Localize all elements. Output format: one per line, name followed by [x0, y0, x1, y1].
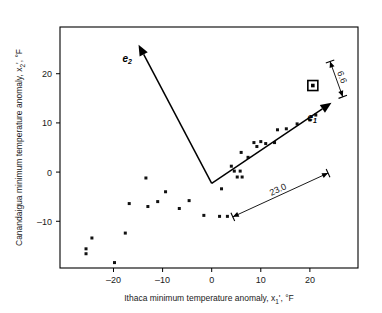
vector-label-e2: e2: [123, 53, 133, 66]
data-point: [188, 199, 191, 202]
vector-shaft-e1: [212, 109, 323, 184]
x-axis-title-post: ', °F: [279, 293, 294, 303]
y-axis-title-post: ', °F: [14, 49, 24, 64]
x-axis-title: Ithaca minimum temperature anomaly, x1',…: [124, 293, 294, 305]
data-point: [124, 232, 127, 235]
x-tick-label: –10: [155, 275, 170, 285]
data-point: [236, 176, 239, 179]
data-point: [202, 214, 205, 217]
data-point: [90, 236, 93, 239]
data-point: [146, 205, 149, 208]
plot-canvas: –20–100102020100–10 e1e2 23.06.6 Ithaca …: [0, 0, 382, 313]
data-point: [264, 142, 267, 145]
y-tick-label: 20: [42, 69, 52, 79]
data-point: [85, 247, 88, 250]
x-tick-label: 10: [256, 275, 266, 285]
measure-line: [233, 173, 328, 217]
data-point: [218, 215, 221, 218]
data-point: [226, 215, 229, 218]
measure-arrowhead: [330, 61, 335, 68]
measure-cap-end: [326, 169, 330, 177]
measurement-annotations: 23.06.6: [231, 60, 349, 221]
data-point: [252, 141, 255, 144]
x-axis-title-pre: Ithaca minimum temperature anomaly, x: [124, 293, 276, 303]
scatter-plot-figure: –20–100102020100–10 e1e2 23.06.6 Ithaca …: [0, 0, 382, 313]
data-point: [276, 128, 279, 131]
measure-label: 23.0: [268, 181, 288, 197]
vector-label-sub-e2: 2: [127, 58, 132, 65]
data-point: [156, 200, 159, 203]
x-tick-label: 20: [305, 275, 315, 285]
highlighted-point: [308, 81, 318, 91]
data-point: [240, 151, 243, 154]
data-point: [239, 170, 242, 173]
data-point: [128, 202, 131, 205]
plot-frame: [60, 27, 358, 268]
data-point: [178, 207, 181, 210]
vector-arrowhead-e1: [320, 103, 332, 113]
data-point: [241, 176, 244, 179]
data-point: [233, 170, 236, 173]
y-tick-label: 10: [42, 118, 52, 128]
x-tick-label: –20: [106, 275, 121, 285]
y-tick-label: 0: [47, 168, 52, 178]
data-point: [144, 176, 147, 179]
data-point: [85, 252, 88, 255]
eigenvector-arrows: e1e2: [123, 45, 332, 184]
y-axis-title-pre: Canandaigua minimum temperature anomaly,…: [14, 67, 24, 246]
data-point: [259, 140, 262, 143]
data-point: [230, 165, 233, 168]
y-axis-title: Canandaigua minimum temperature anomaly,…: [14, 49, 26, 246]
axis-titles: Ithaca minimum temperature anomaly, x1',…: [14, 49, 294, 305]
data-point: [285, 127, 288, 130]
x-tick-label: 0: [209, 275, 214, 285]
y-tick-label: –10: [37, 217, 52, 227]
data-point: [164, 190, 167, 193]
vector-shaft-e2: [144, 54, 212, 183]
measure-arrowhead: [338, 90, 343, 97]
data-point: [255, 145, 258, 148]
axis-tick-labels: –20–100102020100–10: [37, 69, 315, 285]
data-point: [113, 261, 116, 264]
data-point: [220, 187, 223, 190]
plot-border: [60, 27, 358, 268]
highlight-inner-square: [311, 84, 315, 88]
vector-label-sub-e1: 1: [313, 117, 317, 124]
measure-cap-start: [231, 213, 235, 221]
axis-ticks: [56, 74, 310, 272]
